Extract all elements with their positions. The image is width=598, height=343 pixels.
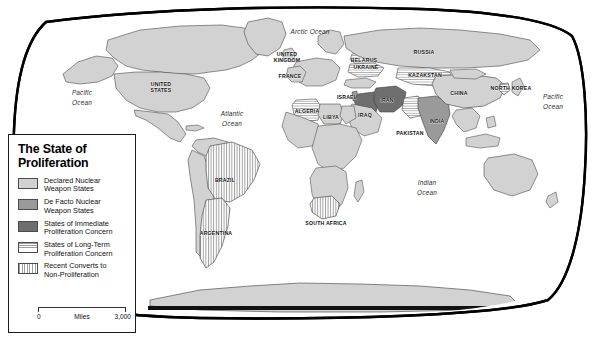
antarctica-shadow [148,306,520,310]
country-libya [318,104,344,124]
proliferation-map-figure: PacificOceanAtlanticOceanArctic OceanInd… [0,0,598,343]
legend-title-line-1: The State of [18,142,128,156]
scale-bar-labels: 0 Miles 3,000 [38,313,126,323]
legend-label-recent-converts: Recent Converts to Non-Proliferation [44,262,106,279]
legend-label-declared-line-2: Weapon States [44,185,100,194]
legend-item-long-term-concern: States of Long-Term Proliferation Concer… [17,241,128,258]
legend-label-recent-converts-line-2: Non-Proliferation [44,271,106,280]
legend-label-declared: Declared Nuclear Weapon States [44,177,100,194]
scale-bar-min-label: 0 [37,313,41,320]
legend-title-line-2: Proliferation [18,156,128,170]
legend-label-long-term-concern-line-2: Proliferation Concern [44,250,113,259]
scale-bar-max-label: 3,000 [114,313,131,320]
scale-bar-unit-label: Miles [74,313,89,320]
legend-item-recent-converts: Recent Converts to Non-Proliferation [17,262,128,279]
scale-bar: 0 Miles 3,000 [38,307,126,323]
legend-label-immediate-concern-line-2: Proliferation Concern [44,228,113,237]
legend-swatch-recent-converts [18,263,38,274]
legend-item-de-facto: De Facto Nuclear Weapon States [17,198,128,215]
legend-label-long-term-concern: States of Long-Term Proliferation Concer… [44,241,113,258]
legend-label-de-facto-line-2: Weapon States [44,207,101,216]
legend-label-de-facto: De Facto Nuclear Weapon States [44,198,101,215]
legend-swatch-long-term-concern [18,242,38,253]
country-philippines [486,116,496,128]
legend-swatch-declared [18,178,38,189]
map-legend: The State of Proliferation Declared Nucl… [8,134,136,333]
scale-bar-line [38,307,126,312]
legend-item-declared: Declared Nuclear Weapon States [17,177,128,194]
legend-swatch-immediate-concern [18,221,38,232]
country-ukraine [348,63,384,77]
legend-title: The State of Proliferation [18,142,128,171]
legend-swatch-de-facto [18,199,38,210]
legend-label-immediate-concern: States of Immediate Proliferation Concer… [44,220,113,237]
legend-item-immediate-concern: States of Immediate Proliferation Concer… [17,220,128,237]
